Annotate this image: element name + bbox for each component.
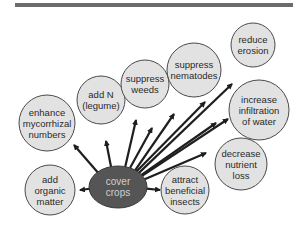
node-label-line: enhance [23, 107, 72, 118]
node-label-line: reduce [237, 34, 268, 45]
node-label-line: nematodes [170, 70, 217, 81]
node-reduce-erosion: reduceerosion [231, 23, 275, 67]
center-label-line-2: crops [106, 187, 130, 198]
node-label-line: nutrient [221, 159, 260, 170]
arrow [134, 114, 174, 172]
node-label-line: infiltration [239, 105, 280, 116]
node-label-line: matter [34, 196, 65, 207]
node-add-organic-matter: addorganicmatter [25, 165, 75, 215]
node-add-n-legume: add N(legume) [77, 76, 125, 124]
node-increase-infiltration-of-water: increaseinfiltrationof water [229, 80, 289, 140]
node-enhance-mycorrhizal-numbers: enhancemycorrhizalnumbers [19, 95, 75, 151]
node-label-line: add [34, 174, 65, 185]
node-label-line: (legume) [82, 100, 120, 111]
node-label-line: suppress [126, 73, 165, 84]
node-label-line: attract [165, 174, 205, 185]
node-attract-beneficial-insects: attractbeneficialinsects [161, 166, 209, 214]
node-label-line: decrease [221, 148, 260, 159]
node-suppress-nematodes: suppressnematodes [167, 43, 221, 97]
node-decrease-nutrient-loss: decreasenutrientloss [215, 138, 267, 190]
node-label-line: increase [239, 94, 280, 105]
node-label-line: insects [165, 196, 205, 207]
node-suppress-weeds: suppressweeds [121, 60, 169, 108]
node-label-line: add N [82, 89, 120, 100]
node-label-line: organic [34, 185, 65, 196]
node-label-line: erosion [237, 45, 268, 56]
arrow [106, 141, 111, 169]
node-label-line: beneficial [165, 185, 205, 196]
center-label-line-1: cover [106, 176, 130, 187]
cover-crops-label: cover crops [89, 166, 147, 208]
node-label-line: of water [239, 116, 280, 127]
node-label-line: loss [221, 170, 260, 181]
node-label-line: suppress [170, 59, 217, 70]
node-label-line: weeds [126, 84, 165, 95]
node-label-line: numbers [23, 129, 72, 140]
node-label-line: mycorrhizal [23, 118, 72, 129]
